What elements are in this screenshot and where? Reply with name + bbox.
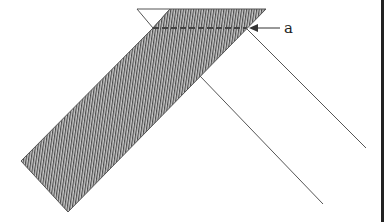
diagram-canvas: a (0, 0, 384, 222)
hatched-band (21, 9, 266, 212)
diagram-svg: a (0, 0, 384, 222)
inner-line (200, 76, 323, 204)
outer-line (246, 28, 366, 148)
label-a: a (284, 19, 293, 37)
